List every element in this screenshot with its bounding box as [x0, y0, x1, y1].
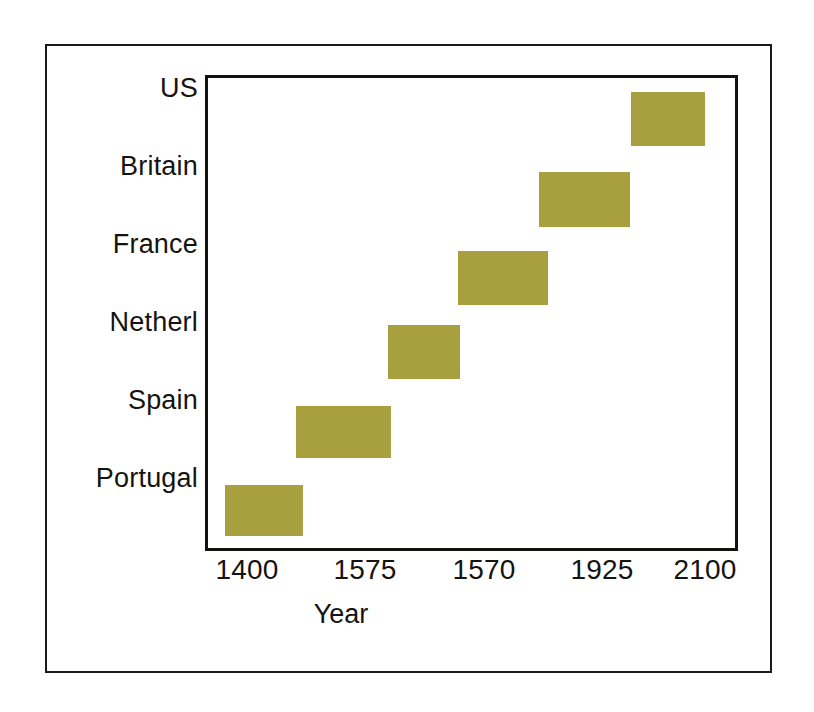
y-tick-label-netherl: Netherl [40, 309, 198, 336]
x-tick-label-1: 1400 [215, 556, 278, 584]
bar-spain [296, 406, 391, 458]
bar-us [631, 92, 705, 146]
x-tick-label-2: 1575 [333, 556, 396, 584]
bar-portugal [225, 485, 303, 536]
bar-france [458, 251, 548, 305]
y-tick-label-portugal: Portugal [40, 465, 198, 492]
y-tick-label-britain: Britain [40, 153, 198, 180]
x-axis-title-text: Year [314, 601, 369, 628]
x-axis-title: Year [0, 601, 814, 628]
figure-root: US Britain France Netherl Spain Portugal… [0, 0, 814, 712]
bar-britain [539, 172, 630, 227]
bar-netherl [388, 325, 460, 379]
y-tick-label-france: France [40, 231, 198, 258]
x-axis-tick-labels: 1400 1575 1570 1925 2100 [0, 556, 814, 598]
x-tick-label-4: 1925 [570, 556, 633, 584]
plot-area [208, 78, 735, 548]
y-tick-label-us: US [40, 75, 198, 102]
y-axis-tick-labels: US Britain France Netherl Spain Portugal [40, 75, 198, 551]
x-tick-label-5: 2100 [673, 556, 736, 584]
y-tick-label-spain: Spain [40, 387, 198, 414]
x-tick-label-3: 1570 [452, 556, 515, 584]
plot-frame [205, 75, 738, 551]
